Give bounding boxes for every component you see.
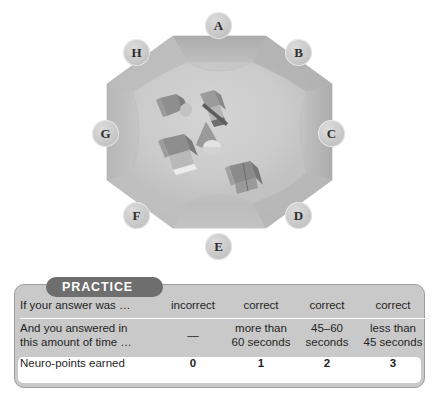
table-row-time: And you answered in this amount of time … [20,319,428,351]
cell-points-1: 0 [160,351,226,375]
cell-time-4-line2: 45 seconds [358,335,428,349]
cell-time-4: less than 45 seconds [358,319,428,351]
row-label-answer: If your answer was … [20,292,160,318]
row-label-time: And you answered in this amount of time … [20,319,160,351]
row-label-points: Neuro-points earned [20,351,160,375]
position-badge-c-label: C [327,127,336,140]
row-label-time-line1: And you answered in [20,321,160,335]
cell-time-2-line2: 60 seconds [226,335,296,349]
cell-time-2: more than 60 seconds [226,319,296,351]
cell-time-3: 45–60 seconds [296,319,358,351]
cell-points-3: 2 [296,351,358,375]
position-badge-a[interactable]: A [205,12,232,39]
table-row-answer: If your answer was … incorrect correct c… [20,292,428,318]
position-badge-b-label: B [294,46,303,59]
position-badge-e-label: E [214,240,223,253]
cell-answer-3: correct [296,292,358,318]
octagon-arena-graphic [0,0,439,268]
position-badge-g-label: G [100,127,110,140]
cell-points-4: 3 [358,351,428,375]
row-label-time-line2: this amount of time … [20,335,160,349]
position-badge-h-label: H [131,46,141,59]
octagon-inner-floor [133,62,306,203]
cell-answer-2: correct [226,292,296,318]
position-badge-d-label: D [294,209,303,222]
cell-time-4-line1: less than [358,321,428,335]
cell-answer-1: incorrect [160,292,226,318]
position-badge-c[interactable]: C [318,120,345,147]
position-badge-d[interactable]: D [285,202,312,229]
position-badge-g[interactable]: G [92,120,119,147]
position-badge-e[interactable]: E [205,233,232,260]
cell-points-2: 1 [226,351,296,375]
cell-time-2-line1: more than [226,321,296,335]
position-badge-b[interactable]: B [285,39,312,66]
table-row-points: Neuro-points earned 0 1 2 3 [20,351,428,375]
position-badge-f[interactable]: F [123,202,150,229]
position-badge-f-label: F [133,209,141,222]
cell-time-3-line1: 45–60 [296,321,358,335]
cell-time-3-line2: seconds [296,335,358,349]
cell-answer-4: correct [358,292,428,318]
cell-time-1: — [160,319,226,351]
position-badge-a-label: A [214,19,223,32]
cell-time-1-line1: — [160,328,226,342]
position-badge-h[interactable]: H [123,39,150,66]
practice-scoring-table: If your answer was … incorrect correct c… [20,292,428,375]
arena-figure: A B C D E F G H [0,0,439,268]
